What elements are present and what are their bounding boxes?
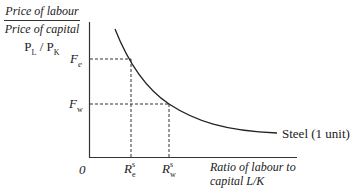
x-axis-label: Ratio of labour to capital L/K (210, 160, 296, 188)
y-tick-fw: Fw (69, 96, 83, 114)
y-tick-fe: Fe (70, 51, 82, 69)
x-tick-rw: Rsw (162, 161, 176, 179)
origin-label: 0 (79, 162, 86, 178)
steel-isoquant-curve (115, 29, 277, 133)
x-tick-re: Rse (124, 161, 136, 179)
plot-area (0, 0, 355, 195)
curve-label-steel: Steel (1 unit) (282, 126, 350, 142)
